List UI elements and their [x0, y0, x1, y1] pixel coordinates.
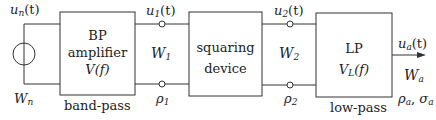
lp-tf-arg: (f) [354, 62, 369, 77]
squaring-title: squaring [189, 37, 262, 58]
node-rho1-label: ρ1 [156, 92, 169, 107]
output-bandwidth-label: Wa [404, 68, 424, 84]
output-sigma-sub: a [428, 97, 433, 107]
source-bandwidth-sub: n [27, 97, 33, 107]
node-rho2-label: ρ2 [284, 92, 297, 107]
node-rho2-symbol: ρ [284, 91, 292, 106]
node-u1-top-terminal [159, 21, 165, 27]
bp-subtitle: amplifier [60, 44, 135, 61]
node-u1-signal-label: u1(t) [146, 4, 175, 19]
node-u1-bottom-terminal [159, 81, 165, 87]
node-w2-label: W2 [279, 46, 299, 62]
node-w1-symbol: W [151, 45, 165, 61]
node-w1-label: W1 [151, 46, 171, 62]
source-wire-top [24, 24, 60, 43]
node-w2-symbol: W [279, 45, 293, 61]
output-signal-arg: (t) [412, 36, 427, 51]
node-u2-arg: (t) [288, 3, 303, 18]
lp-caption: low-pass [330, 101, 387, 114]
node-w2-sub: 2 [293, 52, 299, 62]
source-signal-arg: (t) [24, 2, 39, 17]
node-u2-signal-label: u2(t) [274, 4, 303, 19]
output-signal-label: ua(t) [398, 37, 427, 52]
lp-title: LP [316, 38, 392, 59]
lp-filter-text: LP VL(f) [316, 38, 392, 84]
source-signal-label: un(t) [10, 3, 40, 18]
bp-title: BP [60, 27, 135, 44]
output-stats-label: ρa, σa [398, 92, 434, 107]
node-rho1-symbol: ρ [156, 91, 164, 106]
node-rho1-sub: 1 [164, 97, 170, 107]
bp-amplifier-text: BP amplifier V(f) [60, 27, 135, 78]
node-rho2-sub: 2 [292, 97, 298, 107]
output-bandwidth-symbol: W [404, 67, 418, 83]
squaring-subtitle: device [189, 58, 262, 79]
output-arrow-head [417, 52, 426, 58]
source-bandwidth-symbol: W [14, 91, 27, 106]
source-wire-bottom [24, 65, 60, 84]
node-w1-sub: 1 [165, 52, 171, 62]
squaring-device-text: squaring device [189, 37, 262, 79]
lp-transfer-function: VL(f) [316, 59, 392, 84]
output-sigma-symbol: σ [419, 91, 428, 106]
output-bandwidth-sub: a [418, 74, 423, 84]
bp-transfer-function: V(f) [60, 61, 135, 78]
lp-tf-symbol: V [339, 62, 348, 77]
node-u1-arg: (t) [160, 3, 175, 18]
node-u2-bottom-terminal [287, 82, 293, 88]
bp-caption: band-pass [64, 99, 131, 112]
output-rho-symbol: ρ [398, 91, 406, 106]
node-u2-top-terminal [287, 21, 293, 27]
source-bandwidth-label: Wn [14, 92, 33, 107]
